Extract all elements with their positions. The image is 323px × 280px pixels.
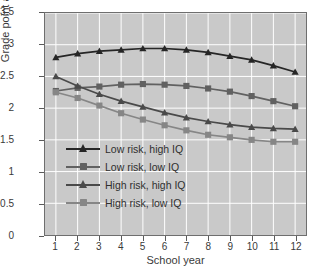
x-tick-mark — [186, 236, 187, 241]
x-tick-mark — [230, 236, 231, 241]
square-marker-icon — [80, 163, 87, 170]
y-tick-mark — [39, 140, 44, 141]
x-tick-mark — [296, 236, 297, 241]
x-tick-label: 9 — [228, 242, 234, 252]
y-tick-label: 3 — [8, 39, 14, 49]
y-tick-mark — [39, 108, 44, 109]
y-tick-mark — [39, 236, 44, 237]
legend-item-3[interactable]: High risk, low IQ — [66, 194, 216, 212]
legend-item-1[interactable]: Low risk, low IQ — [66, 158, 216, 176]
x-tick-mark — [121, 236, 122, 241]
y-tick-label: 0 — [8, 231, 14, 241]
x-tick-mark — [208, 236, 209, 241]
chart-legend: Low risk, high IQLow risk, low IQHigh ri… — [66, 140, 216, 212]
x-tick-mark — [55, 236, 56, 241]
y-tick-label: 0.5 — [0, 199, 14, 209]
y-tick-mark — [39, 172, 44, 173]
square-marker-icon — [80, 199, 87, 206]
triangle-marker-icon — [79, 144, 87, 152]
y-tick-mark — [39, 44, 44, 45]
y-tick-label: 2 — [8, 103, 14, 113]
legend-label: Low risk, low IQ — [105, 162, 179, 173]
x-tick-label: 1 — [52, 242, 58, 252]
legend-swatch — [66, 142, 100, 156]
x-tick-label: 6 — [162, 242, 168, 252]
x-tick-mark — [143, 236, 144, 241]
series-1 — [53, 81, 298, 109]
x-tick-label: 2 — [74, 242, 80, 252]
legend-swatch — [66, 160, 100, 174]
y-tick-mark — [39, 76, 44, 77]
x-tick-label: 12 — [290, 242, 301, 252]
legend-item-2[interactable]: High risk, high IQ — [66, 176, 216, 194]
triangle-marker-icon — [79, 180, 87, 188]
chart-figure: Grade point average 00.511.522.533.5 123… — [0, 0, 323, 280]
y-tick-mark — [39, 204, 44, 205]
x-tick-label: 3 — [96, 242, 102, 252]
series-0 — [52, 45, 298, 75]
y-tick-label: 2.5 — [0, 71, 14, 81]
x-tick-label: 4 — [118, 242, 124, 252]
x-tick-label: 10 — [247, 242, 258, 252]
x-axis-title: School year — [44, 254, 307, 266]
x-tick-mark — [274, 236, 275, 241]
x-tick-mark — [252, 236, 253, 241]
x-tick-mark — [77, 236, 78, 241]
x-tick-label: 8 — [206, 242, 212, 252]
legend-label: High risk, high IQ — [105, 180, 186, 191]
legend-swatch — [66, 178, 100, 192]
legend-label: High risk, low IQ — [105, 198, 181, 209]
y-tick-label: 3.5 — [0, 7, 14, 17]
legend-item-0[interactable]: Low risk, high IQ — [66, 140, 216, 158]
x-tick-mark — [99, 236, 100, 241]
y-tick-mark — [39, 12, 44, 13]
x-tick-mark — [165, 236, 166, 241]
legend-swatch — [66, 196, 100, 210]
x-tick-label: 5 — [140, 242, 146, 252]
legend-label: Low risk, high IQ — [105, 144, 183, 155]
x-tick-label: 7 — [184, 242, 190, 252]
x-tick-label: 11 — [269, 242, 279, 252]
y-tick-label: 1 — [8, 167, 14, 177]
y-tick-label: 1.5 — [0, 135, 14, 145]
